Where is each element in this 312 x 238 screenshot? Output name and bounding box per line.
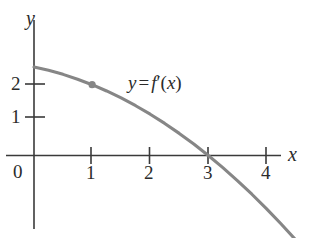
curve-annotation-close-paren: ): [175, 72, 181, 93]
marked-point-1-2: [89, 81, 96, 88]
x-tick-label-1: 1: [86, 163, 96, 182]
x-tick-label-2: 2: [144, 163, 154, 182]
x-tick-label-3: 3: [203, 163, 213, 182]
curve-annotation: y=f′(x): [128, 73, 182, 92]
curve-annotation-operator: =: [136, 72, 151, 93]
y-tick-label-2: 2: [11, 74, 21, 93]
plot-canvas: [0, 0, 312, 238]
y-axis-label: y: [26, 8, 35, 28]
y-tick-label-1: 1: [11, 107, 21, 126]
figure-container: y x 0 2 1 1 2 3 4 y=f′(x): [0, 0, 312, 238]
x-axis-label: x: [288, 144, 297, 164]
origin-tick-label: 0: [13, 162, 23, 181]
x-tick-label-4: 4: [261, 163, 271, 182]
